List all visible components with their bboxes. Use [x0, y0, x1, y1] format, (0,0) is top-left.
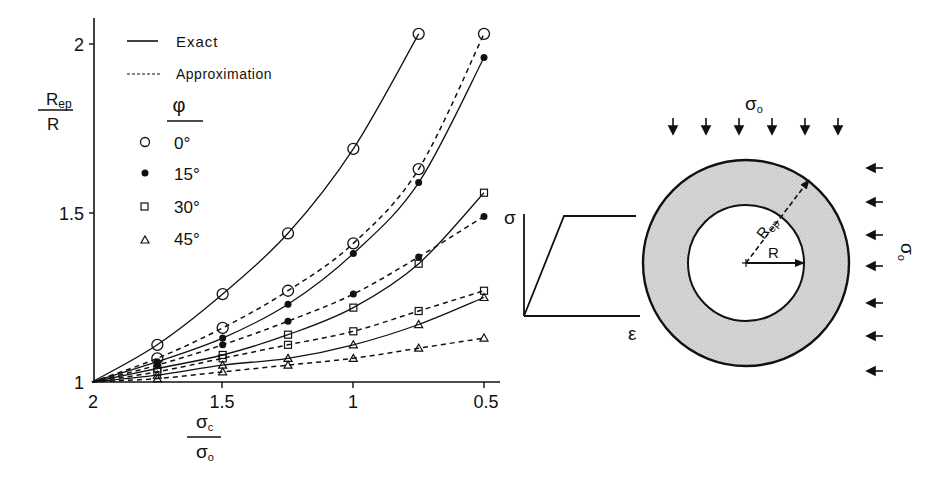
- top-load-arrows: [669, 118, 842, 134]
- legend-phi-title: φ: [173, 94, 186, 116]
- legend: Exact Approximation φ 0° 15° 30° 45°: [127, 33, 272, 249]
- data-point-open-circle: [283, 285, 294, 296]
- series-line-2: [92, 58, 484, 383]
- data-point-filled-circle: [350, 250, 357, 257]
- data-point-filled-circle: [481, 54, 488, 61]
- data-point-open-circle: [479, 28, 490, 39]
- series-line-1: [92, 34, 484, 382]
- data-point-filled-circle: [285, 318, 292, 325]
- y-tick-label-1-5: 1.5: [59, 204, 84, 224]
- data-point-filled-circle: [219, 335, 226, 342]
- svg-text:0°: 0°: [174, 134, 190, 153]
- x-tick-label-0-5: 0.5: [473, 392, 498, 412]
- data-point-filled-circle: [350, 291, 357, 298]
- svg-text:Rep: Rep: [46, 90, 72, 111]
- x-tick-label-2: 2: [88, 392, 98, 412]
- data-point-open-circle: [152, 339, 163, 350]
- legend-open-circle-icon: [141, 138, 150, 147]
- figure: 2 1.5 1 2 1.5 1 0.5 Rep R σc σo Exact Ap…: [0, 0, 937, 486]
- svg-text:45°: 45°: [174, 230, 200, 249]
- top-stress-label: σo: [745, 93, 763, 115]
- plot-lines: [92, 34, 484, 382]
- data-point-open-circle: [413, 28, 424, 39]
- legend-open-square-icon: [141, 203, 148, 210]
- x-axis-label: σc σo: [187, 411, 221, 463]
- svg-text:30°: 30°: [174, 198, 200, 217]
- svg-text:R: R: [47, 115, 59, 134]
- data-point-open-circle: [217, 289, 228, 300]
- stress-strain-diagram: σ ε: [504, 207, 640, 344]
- strain-label: ε: [628, 323, 637, 344]
- tunnel-diagram: σo R Rep σo: [643, 93, 918, 375]
- y-tick-label-1: 1: [74, 373, 84, 393]
- svg-text:σc: σc: [196, 411, 214, 433]
- chart: 2 1.5 1 2 1.5 1 0.5 Rep R σc σo Exact Ap…: [38, 18, 500, 463]
- stress-label: σ: [504, 207, 516, 228]
- y-tick-label-2: 2: [74, 35, 84, 55]
- svg-text:15°: 15°: [174, 165, 200, 184]
- y-axis-label: Rep R: [38, 90, 73, 134]
- data-point-open-circle: [217, 322, 228, 333]
- data-point-filled-circle: [481, 213, 488, 220]
- side-load-arrows: [867, 164, 883, 375]
- x-ticks: [222, 382, 484, 388]
- x-tick-label-1: 1: [348, 392, 358, 412]
- data-point-filled-circle: [415, 253, 422, 260]
- data-point-open-triangle: [219, 368, 227, 375]
- data-point-filled-circle: [219, 341, 226, 348]
- x-tick-label-1-5: 1.5: [209, 392, 234, 412]
- side-stress-label: σo: [896, 243, 918, 261]
- data-point-filled-circle: [415, 179, 422, 186]
- data-point-open-circle: [413, 164, 424, 175]
- data-point-open-circle: [283, 228, 294, 239]
- data-point-filled-circle: [285, 301, 292, 308]
- data-point-open-circle: [348, 143, 359, 154]
- legend-exact-label: Exact: [176, 33, 219, 50]
- inner-radius-label: R: [768, 244, 779, 261]
- legend-approx-label: Approximation: [176, 66, 272, 82]
- data-point-open-circle: [348, 238, 359, 249]
- data-point-open-triangle: [480, 334, 488, 341]
- legend-filled-circle-icon: [142, 170, 149, 177]
- svg-text:σo: σo: [196, 441, 214, 463]
- legend-open-triangle-icon: [141, 236, 149, 243]
- series-line-3: [92, 216, 484, 382]
